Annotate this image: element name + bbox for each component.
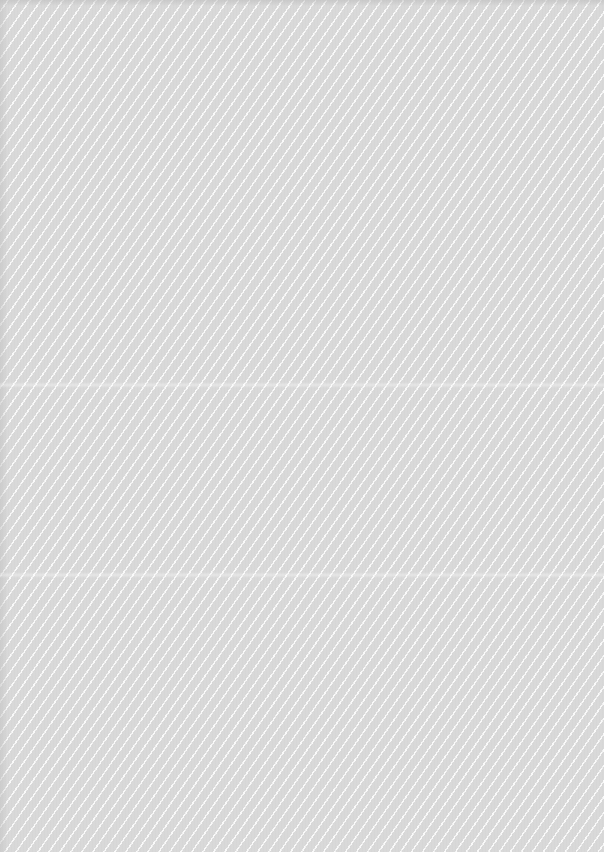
striped-texture-background (0, 0, 604, 852)
vertical-hatch-pattern (0, 0, 604, 852)
left-edge-shadow (0, 0, 8, 852)
crease-line-lower (0, 572, 604, 578)
crease-line-upper (0, 382, 604, 388)
top-edge-shadow (0, 0, 604, 6)
